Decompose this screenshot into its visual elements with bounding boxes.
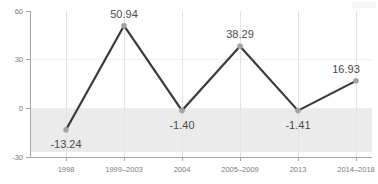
chart-background (0, 0, 378, 184)
line-chart: 60300-30 19981999–200320042005–200920132… (0, 0, 378, 184)
data-point-marker (179, 108, 184, 113)
data-value-label: 50.94 (110, 8, 138, 20)
data-point-marker (295, 108, 300, 113)
data-value-label: 38.29 (226, 28, 254, 40)
data-point-marker (237, 44, 242, 49)
data-value-label: -1.41 (285, 119, 310, 131)
chart-canvas: 60300-30 19981999–200320042005–200920132… (0, 0, 378, 184)
y-tick-label: 30 (15, 55, 23, 64)
x-tick-label: 1999–2003 (105, 165, 143, 174)
x-tick-label: 2013 (290, 165, 307, 174)
y-tick-label: 0 (19, 104, 23, 113)
x-tick-label: 2014–2018 (337, 165, 375, 174)
y-tick-label: 60 (15, 7, 23, 16)
x-tick-label: 2005–2009 (221, 165, 259, 174)
negative-region-band (31, 108, 372, 152)
data-point-marker (63, 127, 68, 132)
negative-band-rect (31, 108, 372, 152)
data-point-marker (121, 23, 126, 28)
x-tick-label: 1998 (58, 165, 75, 174)
data-value-label: -13.24 (50, 138, 81, 150)
data-value-label: 16.93 (332, 63, 360, 75)
data-value-label: -1.40 (169, 119, 194, 131)
y-tick-label: -30 (12, 153, 23, 162)
top-right-artifact (352, 2, 376, 8)
x-tick-label: 2004 (174, 165, 191, 174)
data-point-marker (353, 78, 358, 83)
